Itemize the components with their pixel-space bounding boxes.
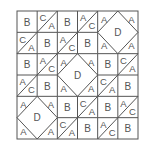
piece-b-label: B — [84, 38, 91, 49]
piece-a-label: A — [100, 119, 107, 130]
piece-d-label: D — [34, 112, 41, 123]
corner-a-label: A — [88, 83, 95, 94]
piece-b-label: B — [104, 59, 111, 70]
piece-a-label: A — [129, 63, 136, 74]
piece-c-label: C — [109, 127, 116, 138]
piece-d-label: D — [74, 70, 81, 81]
piece-a-label: A — [69, 127, 76, 138]
piece-c-label: C — [100, 76, 107, 87]
corner-a-label: A — [61, 57, 68, 68]
piece-b-label: B — [125, 123, 132, 134]
piece-b-label: B — [44, 81, 51, 92]
corner-a-label: A — [20, 126, 27, 137]
piece-c-label: C — [120, 55, 127, 66]
piece-b-label: B — [44, 38, 51, 49]
corner-a-label: A — [128, 14, 135, 25]
piece-b-label: B — [64, 17, 71, 28]
piece-a-label: A — [89, 106, 96, 117]
piece-c-label: C — [19, 34, 26, 45]
piece-b-label: B — [64, 102, 71, 113]
corner-a-label: A — [101, 40, 108, 51]
piece-d-label: D — [114, 27, 121, 38]
piece-a-label: A — [80, 12, 87, 23]
corner-a-label: A — [20, 99, 27, 110]
piece-a-label: A — [49, 20, 56, 31]
piece-b-label: B — [84, 123, 91, 134]
corner-a-label: A — [128, 40, 135, 51]
piece-a-label: A — [120, 98, 127, 109]
piece-a-label: A — [60, 34, 67, 45]
corner-a-label: A — [48, 126, 55, 137]
corner-a-label: A — [61, 83, 68, 94]
piece-c-label: C — [60, 119, 67, 130]
corner-a-label: A — [88, 57, 95, 68]
piece-c-label: C — [80, 98, 87, 109]
piece-a-label: A — [28, 42, 35, 53]
piece-c-label: C — [129, 106, 136, 117]
corner-a-label: A — [101, 14, 108, 25]
piece-a-label: A — [40, 55, 47, 66]
piece-b-label: B — [125, 81, 132, 92]
piece-a-label: A — [19, 76, 26, 87]
piece-a-label: A — [109, 84, 116, 95]
piece-c-label: C — [89, 20, 96, 31]
quilt-diagram: BCABACCABACBBACBCAACBCABBCABACCABACBDAAA… — [0, 0, 144, 152]
piece-b-label: B — [24, 17, 31, 28]
piece-c-label: C — [48, 63, 55, 74]
piece-b-label: B — [104, 102, 111, 113]
corner-a-label: A — [48, 99, 55, 110]
piece-c-label: C — [39, 12, 46, 23]
piece-b-label: B — [24, 59, 31, 70]
piece-c-label: C — [28, 84, 35, 95]
piece-c-label: C — [68, 42, 75, 53]
